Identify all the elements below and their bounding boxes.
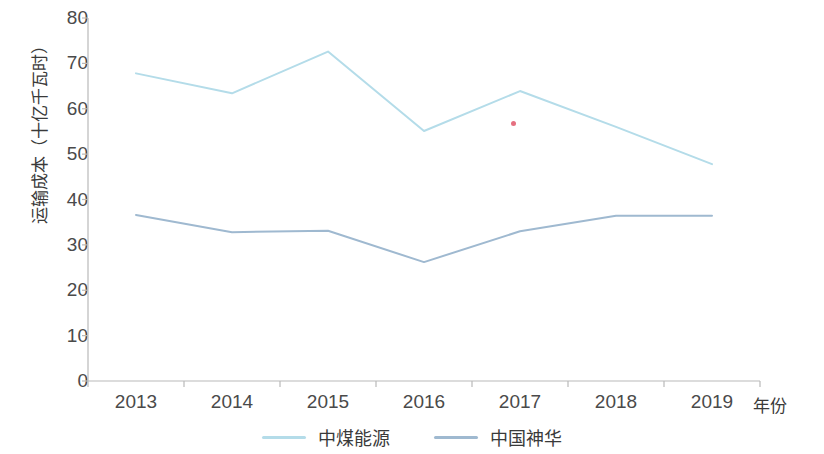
red-speck: [511, 121, 516, 126]
series-line-2: [136, 215, 712, 262]
legend-line-icon: [262, 436, 306, 439]
line-chart: 运输成本（十亿千瓦时） 01020304050607080 2013201420…: [0, 0, 824, 454]
series-line-1: [136, 52, 712, 165]
x-axis-tick-label: 2019: [657, 391, 767, 413]
legend-item[interactable]: 中煤能源: [262, 424, 390, 450]
plot-area: [0, 0, 824, 454]
x-axis-tick-label: 2017: [465, 391, 575, 413]
x-axis-tick-label: 2016: [369, 391, 479, 413]
legend-line-icon: [434, 436, 478, 439]
legend-label: 中国神华: [490, 424, 562, 450]
legend-item[interactable]: 中国神华: [434, 424, 562, 450]
x-axis-tick-label: 2015: [273, 391, 383, 413]
chart-legend: 中煤能源中国神华: [0, 424, 824, 450]
x-axis-tick-label: 2014: [177, 391, 287, 413]
x-axis-title: 年份: [753, 392, 787, 417]
x-axis-tick-label: 2013: [81, 391, 191, 413]
x-axis-tick-label: 2018: [561, 391, 671, 413]
legend-label: 中煤能源: [318, 424, 390, 450]
